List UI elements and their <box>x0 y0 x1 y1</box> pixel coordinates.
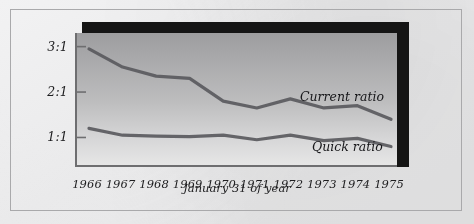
series-line-current-ratio <box>89 49 391 119</box>
y-tick-label: 3:1 <box>34 39 68 54</box>
y-tick-marks <box>77 47 86 138</box>
line-chart: 1:12:13:1 196619671968196919701971197219… <box>0 0 474 224</box>
series-label-current-ratio: Current ratio <box>300 89 384 104</box>
series-label-quick-ratio: Quick ratio <box>312 139 383 154</box>
x-axis-title: January 31 of year <box>0 181 474 195</box>
figure-page: 1:12:13:1 196619671968196919701971197219… <box>0 0 474 224</box>
y-tick-label: 1:1 <box>34 129 68 144</box>
y-tick-label: 2:1 <box>34 84 68 99</box>
